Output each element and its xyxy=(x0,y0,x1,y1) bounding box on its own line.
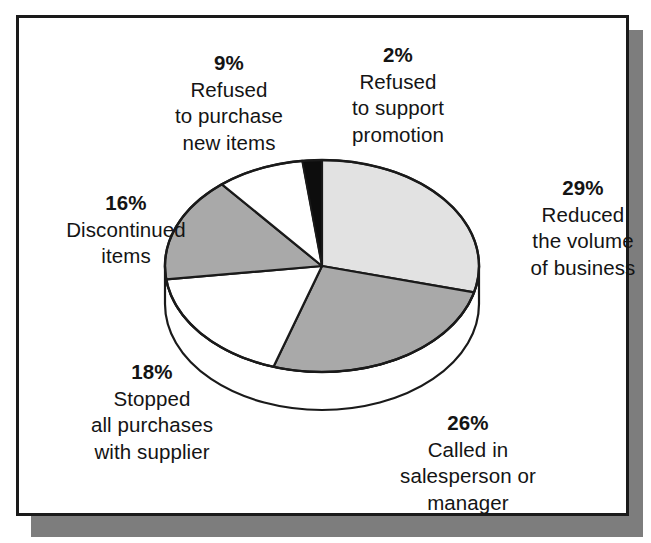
callout-line: with supplier xyxy=(47,439,257,466)
callout-line: Discontinued xyxy=(31,217,221,244)
callout-line: all purchases xyxy=(47,412,257,439)
callout-refused-new-items: 9% Refused to purchase new items xyxy=(129,50,329,157)
callout-line: Reduced xyxy=(499,202,651,229)
callout-called-in: 26% Called in salesperson or manager xyxy=(355,410,581,517)
callout-percent: 2% xyxy=(303,42,493,69)
callout-line: promotion xyxy=(303,122,493,149)
figure-frame: 9% Refused to purchase new items 2% Refu… xyxy=(16,15,629,516)
callout-reduced-volume: 29% Reduced the volume of business xyxy=(499,175,651,282)
callout-refused-promotion: 2% Refused to support promotion xyxy=(303,42,493,149)
callout-line: Refused xyxy=(303,69,493,96)
callout-percent: 18% xyxy=(47,359,257,386)
callout-percent: 29% xyxy=(499,175,651,202)
callout-stopped-purchases: 18% Stopped all purchases with supplier xyxy=(47,359,257,466)
callout-line: Called in xyxy=(355,437,581,464)
callout-line: Stopped xyxy=(47,386,257,413)
callout-line: of business xyxy=(499,255,651,282)
callout-discontinued-items: 16% Discontinued items xyxy=(31,190,221,270)
callout-percent: 9% xyxy=(129,50,329,77)
pie-chart-area: 9% Refused to purchase new items 2% Refu… xyxy=(19,18,626,513)
callout-line: items xyxy=(31,243,221,270)
callout-percent: 26% xyxy=(355,410,581,437)
callout-line: the volume xyxy=(499,228,651,255)
callout-line: to purchase xyxy=(129,103,329,130)
callout-line: new items xyxy=(129,130,329,157)
callout-line: manager xyxy=(355,490,581,517)
callout-percent: 16% xyxy=(31,190,221,217)
callout-line: to support xyxy=(303,95,493,122)
callout-line: Refused xyxy=(129,77,329,104)
callout-line: salesperson or xyxy=(355,463,581,490)
scanned-page-background: 9% Refused to purchase new items 2% Refu… xyxy=(0,0,651,543)
